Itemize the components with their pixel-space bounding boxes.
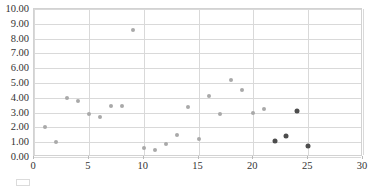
- x-axis: 051015202530: [0, 0, 371, 186]
- x-tick-mark: [143, 156, 144, 159]
- x-tick-mark: [88, 156, 89, 159]
- x-tick-mark: [252, 156, 253, 159]
- x-tick-label: 15: [192, 160, 203, 171]
- legend-fragment: [16, 179, 30, 186]
- x-tick-mark: [33, 156, 34, 159]
- x-tick-label: 0: [30, 160, 35, 171]
- x-tick-mark: [307, 156, 308, 159]
- x-tick-label: 20: [247, 160, 258, 171]
- x-tick-label: 10: [137, 160, 148, 171]
- x-tick-label: 25: [302, 160, 313, 171]
- x-tick-mark: [198, 156, 199, 159]
- x-tick-label: 5: [85, 160, 90, 171]
- scatter-chart: 0.001.002.003.004.005.006.007.008.009.00…: [0, 0, 371, 186]
- x-tick-mark: [362, 156, 363, 159]
- x-tick-label: 30: [357, 160, 368, 171]
